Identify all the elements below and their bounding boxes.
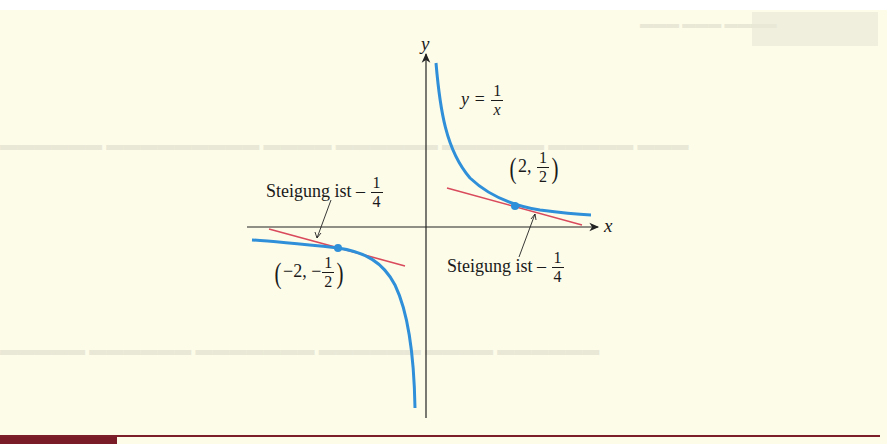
slope-left-num: 1 bbox=[371, 175, 383, 193]
paren-close: ) bbox=[337, 258, 344, 288]
paren-open: ( bbox=[275, 258, 282, 288]
function-label: y = 1 x bbox=[461, 83, 504, 118]
paren-close: ) bbox=[552, 153, 559, 183]
point-label-left: (−2, − 1 2 ) bbox=[273, 255, 345, 290]
point-right-x: 2, bbox=[518, 156, 532, 176]
point-right-fraction: 1 2 bbox=[537, 150, 549, 185]
paren-open: ( bbox=[510, 153, 517, 183]
point-left-den: 2 bbox=[324, 273, 332, 290]
slope-right-num: 1 bbox=[552, 250, 564, 268]
function-den: x bbox=[494, 101, 501, 118]
bottom-rule bbox=[0, 435, 880, 437]
point-left-fraction: 1 2 bbox=[322, 255, 334, 290]
point-neg2-neghalf bbox=[334, 244, 342, 252]
function-fraction: 1 x bbox=[491, 83, 503, 118]
point-left-x: −2, − bbox=[283, 261, 321, 281]
point-label-right: (2, 1 2 ) bbox=[508, 150, 560, 185]
point-right-num: 1 bbox=[537, 150, 549, 168]
slope-left-fraction: 1 4 bbox=[371, 175, 383, 210]
hyperbola-figure bbox=[0, 0, 887, 444]
x-axis-label: x bbox=[604, 216, 612, 235]
function-lhs: y = bbox=[461, 89, 486, 109]
function-num: 1 bbox=[491, 83, 503, 101]
curve-positive-branch bbox=[436, 63, 591, 215]
slope-label-left: Steigung ist – 1 4 bbox=[266, 175, 384, 210]
figure-caption-tab bbox=[0, 437, 117, 444]
slope-label-right: Steigung ist – 1 4 bbox=[447, 250, 565, 285]
slope-left-den: 4 bbox=[373, 193, 381, 210]
slope-left-text: Steigung ist – bbox=[266, 181, 365, 201]
point-right-den: 2 bbox=[539, 168, 547, 185]
point-left-num: 1 bbox=[322, 255, 334, 273]
slope-right-fraction: 1 4 bbox=[552, 250, 564, 285]
slope-right-den: 4 bbox=[554, 268, 562, 285]
point-2-half bbox=[511, 202, 519, 210]
y-axis-label: y bbox=[421, 34, 429, 53]
slope-right-text: Steigung ist – bbox=[447, 256, 546, 276]
